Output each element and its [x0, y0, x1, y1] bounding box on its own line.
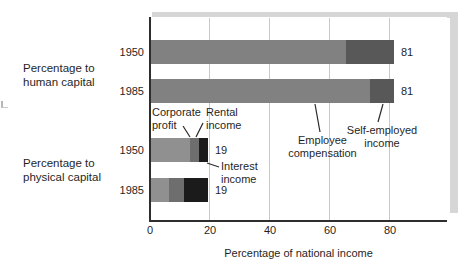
x-axis-title: Percentage of national income [150, 247, 447, 259]
year-label: 1985 [110, 85, 144, 98]
annotation-interest-income: Interest income [221, 160, 258, 186]
annotation-self-employed-income: Self-employed income [334, 124, 430, 150]
bar-segment-self-employed-income [370, 79, 394, 103]
bar-segment-corporate-profit [151, 178, 169, 202]
bar-segment-rental-income [190, 138, 199, 162]
bar-segment-interest-income [199, 138, 208, 162]
bar-segment-interest-income [184, 178, 208, 202]
bar-1950-physical-capital [151, 138, 208, 162]
year-label: 1950 [110, 46, 144, 59]
x-tick-label-60: 60 [324, 224, 336, 236]
annotation-corporate-profit: Corporate profit [152, 106, 201, 132]
x-tick-label-0: 0 [147, 224, 153, 236]
x-tick-label-20: 20 [204, 224, 216, 236]
bar-1985-physical-capital [151, 178, 208, 202]
bar-segment-rental-income [169, 178, 184, 202]
bar-total-label: 81 [401, 85, 413, 98]
bar-1985-human-capital [151, 79, 394, 103]
year-label: 1950 [110, 144, 144, 157]
bar-total-label: 19 [215, 144, 227, 157]
year-label: 1985 [110, 184, 144, 197]
bar-total-label: 81 [401, 46, 413, 59]
x-tick-label-40: 40 [264, 224, 276, 236]
bar-segment-employee-compensation [151, 40, 346, 64]
group-label-human-capital: Percentage to human capital [23, 61, 95, 89]
bar-segment-corporate-profit [151, 138, 190, 162]
scan-artifact [1, 101, 8, 108]
x-tick-label-80: 80 [384, 224, 396, 236]
annotation-rental-income: Rental income [206, 106, 241, 132]
bar-segment-self-employed-income [346, 40, 394, 64]
bar-1950-human-capital [151, 40, 394, 64]
bar-segment-employee-compensation [151, 79, 370, 103]
group-label-physical-capital: Percentage to physical capital [23, 156, 101, 184]
